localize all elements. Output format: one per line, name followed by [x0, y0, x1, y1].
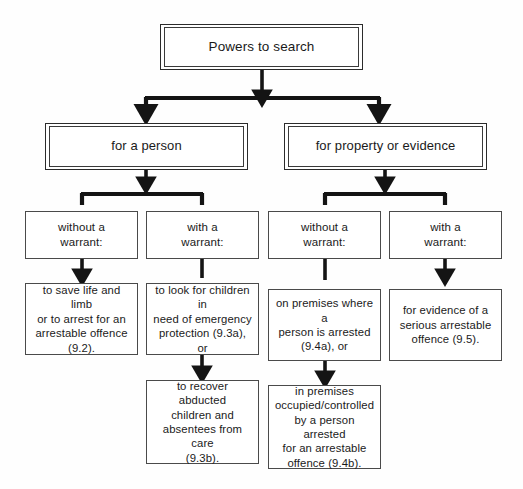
- node-ref-9-3b[interactable]: to recover abducted children and absente…: [146, 380, 259, 464]
- node-ref-9-3a[interactable]: to look for children in need of emergenc…: [146, 283, 259, 355]
- node-label: to recover abducted children and absente…: [147, 379, 258, 466]
- node-property-with-warrant[interactable]: with a warrant:: [389, 211, 502, 259]
- node-person-without-warrant[interactable]: without a warrant:: [25, 211, 138, 259]
- node-ref-9-4b[interactable]: in premises occupied/controlled by a per…: [268, 385, 381, 469]
- node-ref-9-4a[interactable]: on premises where a person is arrested (…: [268, 289, 381, 361]
- node-person-with-warrant[interactable]: with a warrant:: [146, 211, 259, 259]
- node-property-without-warrant[interactable]: without a warrant:: [268, 211, 381, 259]
- node-inner: for a person: [49, 126, 244, 167]
- node-inner: for property or evidence: [288, 126, 483, 167]
- node-powers-to-search[interactable]: Powers to search: [160, 24, 363, 70]
- node-ref-9-2[interactable]: to save life and limb or to arrest for a…: [25, 283, 138, 355]
- node-label: in premises occupied/controlled by a per…: [269, 384, 380, 471]
- node-label: without a warrant:: [52, 220, 111, 249]
- node-for-a-person[interactable]: for a person: [45, 123, 248, 170]
- flowchart-canvas: Powers to search for a person for proper…: [0, 0, 523, 489]
- node-label: to look for children in need of emergenc…: [147, 283, 258, 355]
- node-label: without a warrant:: [295, 220, 354, 249]
- node-label: for a person: [105, 138, 188, 155]
- node-label: with a warrant:: [175, 220, 229, 249]
- node-label: Powers to search: [203, 38, 321, 55]
- node-label: to save life and limb or to arrest for a…: [26, 283, 137, 355]
- node-label: on premises where a person is arrested (…: [269, 296, 380, 354]
- node-label: for property or evidence: [310, 138, 462, 155]
- node-ref-9-5[interactable]: for evidence of a serious arrestable off…: [389, 289, 502, 361]
- node-label: with a warrant:: [418, 220, 472, 249]
- node-for-property-or-evidence[interactable]: for property or evidence: [284, 123, 487, 170]
- node-inner: Powers to search: [164, 27, 359, 67]
- node-label: for evidence of a serious arrestable off…: [394, 303, 498, 346]
